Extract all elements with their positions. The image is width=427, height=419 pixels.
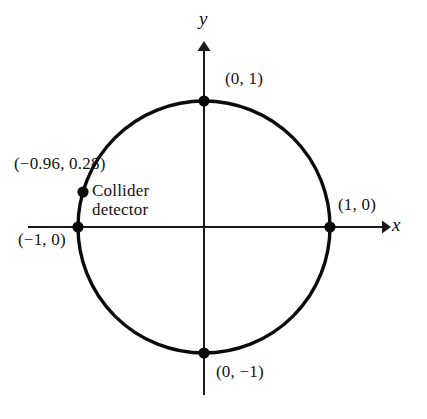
point-marker-top bbox=[198, 95, 209, 106]
collider-detector-line-2: detector bbox=[92, 200, 149, 219]
point-marker-bottom bbox=[198, 347, 209, 358]
point-label-right: (1, 0) bbox=[338, 196, 376, 214]
unit-circle-figure: (0, 1) (1, 0) (0, −1) (−1, 0) (−0.96, 0.… bbox=[0, 0, 427, 419]
point-marker-left bbox=[72, 221, 83, 232]
x-axis-arrowhead-icon bbox=[382, 221, 391, 234]
point-label-left: (−1, 0) bbox=[18, 231, 66, 249]
point-marker-collider bbox=[77, 186, 88, 197]
y-axis-arrowhead-icon bbox=[198, 41, 211, 51]
point-label-bottom: (0, −1) bbox=[216, 363, 264, 381]
collider-detector-line-1: Collider bbox=[92, 181, 149, 200]
x-axis-label: x bbox=[392, 214, 400, 236]
point-label-top: (0, 1) bbox=[225, 70, 263, 88]
collider-detector-annotation: Collider detector bbox=[92, 181, 149, 219]
y-axis-label: y bbox=[199, 8, 207, 30]
point-label-collider-coordinates: (−0.96, 0.28) bbox=[14, 155, 106, 173]
point-marker-right bbox=[324, 221, 335, 232]
